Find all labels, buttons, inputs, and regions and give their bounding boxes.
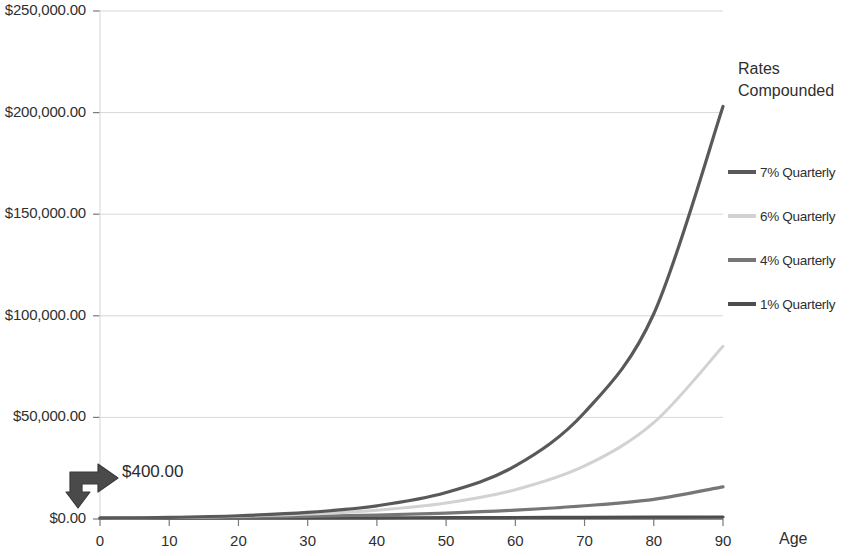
legend-color-swatch — [728, 258, 756, 262]
x-axis-title: Age — [779, 530, 807, 548]
x-axis-tick-label: 80 — [624, 532, 684, 549]
y-axis-tick-label: $50,000.00 — [0, 407, 86, 424]
y-axis-tick-label: $0.00 — [0, 509, 86, 526]
y-axis-tick-label: $200,000.00 — [0, 103, 86, 120]
legend: Rates Compounded 7% Quarterly6% Quarterl… — [738, 58, 853, 102]
legend-item-label: 7% Quarterly — [760, 165, 835, 180]
x-axis-tick-label: 10 — [139, 532, 199, 549]
x-tick-marks-group — [100, 519, 723, 526]
legend-title-line2: Compounded — [738, 80, 853, 102]
x-axis-tick-label: 40 — [347, 532, 407, 549]
legend-item-label: 6% Quarterly — [760, 209, 835, 224]
legend-item[interactable]: 6% Quarterly — [728, 194, 853, 238]
legend-color-swatch — [728, 214, 756, 218]
y-axis-tick-label: $100,000.00 — [0, 306, 86, 323]
y-tick-marks-group — [93, 11, 100, 519]
y-axis-tick-label: $150,000.00 — [0, 204, 86, 221]
legend-item[interactable]: 1% Quarterly — [728, 282, 853, 326]
x-axis-tick-label: 60 — [485, 532, 545, 549]
series-line — [100, 107, 723, 519]
compound-interest-chart: $250,000.00$200,000.00$150,000.00$100,00… — [0, 0, 853, 556]
series-line — [100, 487, 723, 518]
legend-item[interactable]: 7% Quarterly — [728, 150, 853, 194]
y-axis-tick-label: $250,000.00 — [0, 1, 86, 18]
elbow-arrow-icon — [64, 462, 122, 510]
legend-color-swatch — [728, 302, 756, 306]
series-line — [100, 346, 723, 518]
series-paths-group — [100, 107, 723, 519]
x-axis-tick-label: 50 — [416, 532, 476, 549]
legend-item-label: 1% Quarterly — [760, 297, 835, 312]
annotation-value-label: $400.00 — [122, 462, 183, 482]
x-axis-tick-label: 30 — [278, 532, 338, 549]
legend-item-label: 4% Quarterly — [760, 253, 835, 268]
x-axis-tick-label: 90 — [693, 532, 753, 549]
legend-items: 7% Quarterly6% Quarterly4% Quarterly1% Q… — [728, 150, 853, 326]
x-axis-tick-label: 20 — [208, 532, 268, 549]
legend-item[interactable]: 4% Quarterly — [728, 238, 853, 282]
x-axis-tick-label: 70 — [555, 532, 615, 549]
legend-title-line1: Rates — [738, 58, 853, 80]
legend-color-swatch — [728, 170, 756, 174]
x-axis-tick-label: 0 — [70, 532, 130, 549]
